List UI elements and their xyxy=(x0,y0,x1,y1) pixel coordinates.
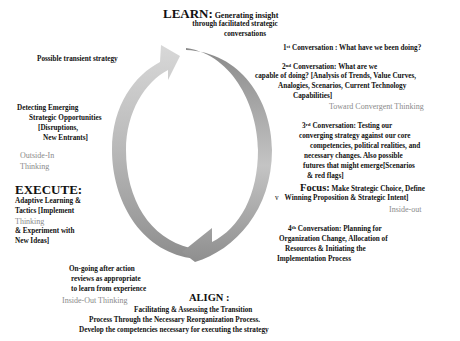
conv2-line1: Conversation: What are we xyxy=(291,63,377,71)
execute-line1: Adaptive Learning & xyxy=(15,197,81,207)
focus-line1: Focus: Make Strategic Choice, Define xyxy=(300,183,425,195)
ongoing-line1: On-going after action xyxy=(69,265,135,275)
inside-out-right-label: Inside-out xyxy=(389,205,421,215)
conversation-3-line1: 3rd Conversation: Testing our xyxy=(302,122,392,132)
align-line2: Process Through the Necessary Reorganiza… xyxy=(89,316,260,326)
detecting-line3: [Disruptions, xyxy=(38,124,78,134)
conversation-2-line2: capable of doing? [Analysis of Trends, V… xyxy=(255,72,416,82)
focus-text1: Make Strategic Choice, Define xyxy=(330,185,425,193)
left-arrow-icon xyxy=(112,45,190,258)
conv3-line1: Conversation: Testing our xyxy=(311,122,393,130)
learn-line2: through facilitated strategic xyxy=(165,20,305,30)
execute-line2: Tactics [Implement xyxy=(15,207,74,217)
conversation-3-line2: converging strategy against our core xyxy=(299,132,411,142)
ongoing-line2: reviews as appropriate xyxy=(71,275,141,285)
detecting-line1: Detecting Emerging xyxy=(17,104,78,114)
outside-in-line2: Thinking xyxy=(20,162,49,172)
transient-strategy-label: Possible transient strategy xyxy=(37,55,118,65)
focus-line2: vWinning Proposition & Strategic Intent] xyxy=(275,194,409,204)
conversation-1: 1st Conversation : What have we been doi… xyxy=(283,44,421,54)
conversation-4-line2: Organization Change, Allocation of xyxy=(279,235,388,245)
conversation-4-line1: 4th Conversation: Planning for xyxy=(288,225,382,235)
conversation-3-line4: necessary changes. Also possible xyxy=(304,152,403,162)
focus-bullet: v xyxy=(275,194,279,202)
focus-title: Focus: xyxy=(300,182,330,193)
execute-line5: New Ideas] xyxy=(15,237,49,247)
conversation-2-line3: Analogies, Scenarios, Current Technology xyxy=(278,82,406,92)
learn-line1: Generating insight xyxy=(215,11,279,20)
detecting-line2: Strategic Opportunities xyxy=(29,114,101,124)
learn-title: LEARN: xyxy=(163,6,213,21)
align-title: ALIGN : xyxy=(189,293,230,303)
detecting-line4: New Entrants] xyxy=(43,134,88,144)
ongoing-line3: to learn from experience xyxy=(71,285,146,295)
align-line1: Facilitating & Assessing the Transition xyxy=(134,306,252,316)
conversation-4-line4: Implementation Process xyxy=(277,255,351,265)
conv4-line1: Conversation: Planning for xyxy=(296,225,382,233)
conversation-3-line5: futures that might emerge[Scenarios xyxy=(303,162,415,172)
inside-out-left-label: Inside-Out Thinking xyxy=(62,296,127,306)
conversation-4-line3: Resources & Initiating the xyxy=(285,245,366,255)
outside-in-line1: Outside-In xyxy=(20,151,54,161)
learn-line3: conversations xyxy=(190,30,300,40)
execute-thinking-gray: Thinking xyxy=(15,217,44,227)
convergent-thinking-label: Toward Convergent Thinking xyxy=(329,102,424,112)
conversation-2-line4: Capabilities] xyxy=(293,92,332,102)
align-line3: Develop the competencies necessary for e… xyxy=(79,326,269,336)
focus-text2: Winning Proposition & Strategic Intent] xyxy=(285,194,409,202)
conversation-3-line3: competencies, political realities, and xyxy=(310,142,420,152)
execute-title: EXECUTE: xyxy=(15,183,82,197)
execute-line4: & Experiment with xyxy=(15,227,75,237)
conv1-text: Conversation : What have we been doing? xyxy=(290,44,421,52)
conversation-3-line6: & red flags] xyxy=(307,172,344,182)
